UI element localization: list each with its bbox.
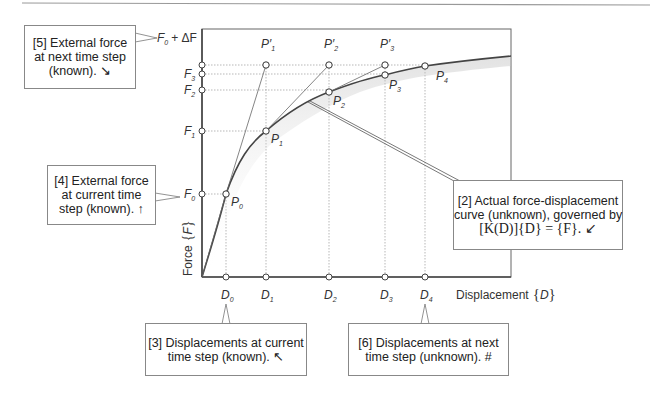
callout-4-external-force-current: [4] External force at current time step …: [47, 165, 156, 225]
svg-text:D4: D4: [420, 288, 433, 303]
callout-line: curve (unknown), governed by: [454, 208, 622, 222]
callout-6-displacements-next: [6] Displacements at next time step (unk…: [348, 323, 509, 376]
svg-text:D3: D3: [380, 288, 393, 303]
callout-line: at current time: [48, 188, 155, 202]
callout-line: [2] Actual force-displacement: [454, 194, 622, 208]
callout-line: time step (known). ↖: [146, 350, 306, 364]
svg-text:D1: D1: [261, 288, 274, 303]
callout-line: time step (unknown). #: [349, 350, 508, 364]
displacement-labels: D0 D1 D2 D3 D4: [221, 288, 433, 303]
svg-text:D2: D2: [324, 288, 337, 303]
callout-5-external-force-next: [5] External force at next time step (kn…: [24, 25, 136, 89]
callout-line: [4] External force: [48, 174, 155, 188]
force-labels: F0+ ΔF F3 F2 F1 F0: [157, 31, 197, 202]
callout-equation: [K(D)]{D} = {F}. ↙: [454, 222, 622, 236]
svg-text:P′1: P′1: [261, 37, 275, 52]
y-axis-title: Force{F}: [180, 221, 195, 277]
svg-text:F1: F1: [184, 124, 195, 139]
point-markers: [223, 62, 428, 197]
svg-text:D0: D0: [221, 288, 234, 303]
svg-text:F3: F3: [184, 67, 195, 82]
callout-line: [5] External force: [25, 36, 135, 50]
svg-text:P0: P0: [231, 195, 243, 210]
x-axis-title: Displacement{D}: [456, 286, 556, 302]
callout-2-actual-curve: [2] Actual force-displacement curve (unk…: [453, 180, 623, 250]
callout-line: [3] Displacements at current: [146, 336, 306, 350]
callout-line: at next time step: [25, 50, 135, 64]
svg-text:F0: F0: [184, 187, 195, 202]
callout-line: step (known). ↑: [48, 202, 155, 216]
svg-text:P′3: P′3: [380, 37, 394, 52]
top-rule: [22, 3, 650, 5]
callout-3-displacements-current: [3] Displacements at current time step (…: [145, 323, 307, 376]
svg-text:F2: F2: [184, 83, 195, 98]
callout-line: [6] Displacements at next: [349, 336, 508, 350]
svg-text:F0+ ΔF: F0+ ΔF: [157, 31, 197, 46]
callout-2-leader: [308, 101, 460, 181]
svg-text:P′2: P′2: [324, 37, 338, 52]
svg-text:Force{F}: Force{F}: [180, 221, 195, 277]
tangent-lines: [202, 65, 385, 277]
callout-line: (known). ↘: [25, 64, 135, 78]
